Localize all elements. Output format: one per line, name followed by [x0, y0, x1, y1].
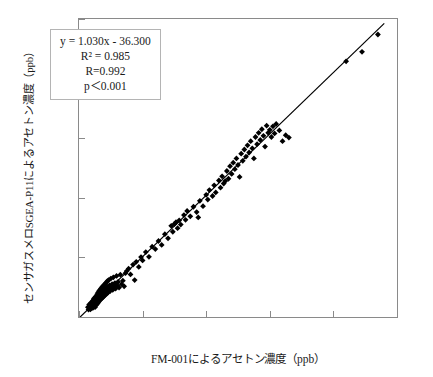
data-point	[187, 213, 193, 219]
data-point	[343, 58, 349, 64]
data-point	[251, 156, 257, 162]
correlation-coefficient: R=0.992	[60, 64, 151, 79]
x-axis-tick-mark	[397, 311, 398, 317]
data-point	[211, 182, 217, 188]
statistics-annotation-box: y = 1.030x - 36.300 R² = 0.985 R=0.992 p…	[50, 29, 161, 100]
data-point	[238, 151, 244, 157]
data-point	[195, 215, 201, 221]
data-point	[276, 128, 282, 134]
y-axis-tick-mark	[79, 19, 85, 20]
data-point	[246, 150, 252, 156]
p-value: p＜0.001	[60, 79, 151, 94]
data-point	[264, 123, 270, 129]
data-point	[132, 277, 138, 283]
x-axis-tick-mark	[333, 311, 334, 317]
data-point	[249, 145, 255, 151]
data-point	[206, 187, 212, 193]
x-axis-tick-mark	[270, 311, 271, 317]
y-axis-tick-mark	[79, 257, 85, 258]
data-point	[257, 137, 263, 143]
data-point	[143, 249, 149, 255]
data-point	[254, 141, 260, 147]
data-point	[165, 235, 171, 241]
regression-equation: y = 1.030x - 36.300	[60, 34, 151, 49]
x-axis-tick-mark	[206, 311, 207, 317]
data-point	[162, 231, 168, 237]
data-point	[216, 178, 222, 184]
data-point	[128, 271, 134, 277]
data-point	[159, 242, 165, 248]
scatter-plot-figure: センサガスメロSGEA-P11によるアセトン濃度（ppb） 0200040006…	[0, 0, 433, 377]
x-axis-label: FM-001によるアセトン濃度（ppb）	[78, 350, 398, 366]
data-point	[248, 138, 254, 144]
data-point	[237, 174, 243, 180]
y-axis-tick-mark	[79, 138, 85, 139]
data-point	[253, 134, 259, 140]
x-axis-tick-mark	[143, 311, 144, 317]
data-point	[232, 166, 238, 172]
x-axis-tick-mark	[79, 311, 80, 317]
data-point	[262, 144, 268, 150]
data-point	[359, 49, 365, 55]
data-point	[375, 32, 381, 38]
data-point	[181, 212, 187, 218]
r-squared-value: R² = 0.985	[60, 49, 151, 64]
data-point	[146, 254, 152, 260]
data-point	[245, 142, 251, 148]
data-point	[184, 208, 190, 214]
y-axis-tick-mark	[79, 317, 85, 318]
data-point	[280, 138, 286, 144]
y-axis-tick-mark	[79, 198, 85, 199]
y-axis-label: センサガスメロSGEA-P11によるアセトン濃度（ppb）	[18, 10, 40, 340]
data-point	[218, 185, 224, 191]
data-point	[200, 203, 206, 209]
data-point	[241, 147, 247, 153]
data-point	[136, 264, 142, 270]
data-point	[205, 197, 211, 203]
data-point	[234, 156, 240, 162]
data-point	[194, 209, 200, 215]
